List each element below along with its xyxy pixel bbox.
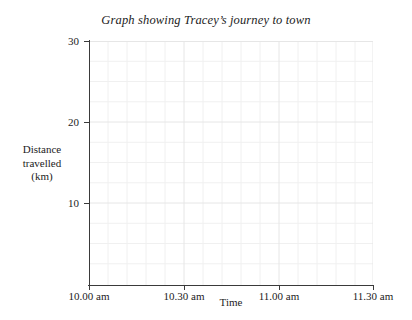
x-tick-label-1000am: 10.00 am — [44, 290, 134, 302]
y-tick-mark-10 — [84, 203, 89, 204]
y-axis-title-line-3: (km) — [6, 170, 78, 184]
y-axis-title-line-1: Distance — [6, 143, 78, 157]
y-tick-mark-30 — [84, 41, 89, 42]
y-tick-label-10: 10 — [39, 198, 79, 209]
y-tick-label-30: 30 — [39, 36, 79, 47]
y-tick-mark-20 — [84, 122, 89, 123]
y-axis-title-line-2: travelled — [6, 157, 78, 171]
plot-area — [89, 41, 373, 285]
major-gridlines — [89, 41, 373, 285]
y-tick-label-20: 20 — [39, 117, 79, 128]
x-axis-title: Time — [186, 296, 276, 309]
x-axis-line — [88, 285, 374, 286]
chart-figure: Graph showing Tracey’s journey to town — [0, 0, 412, 320]
y-axis-line — [89, 40, 90, 286]
x-tick-label-1130am: 11.30 am — [328, 290, 412, 302]
chart-title: Graph showing Tracey’s journey to town — [0, 13, 412, 28]
y-axis-title: Distance travelled (km) — [6, 143, 78, 184]
